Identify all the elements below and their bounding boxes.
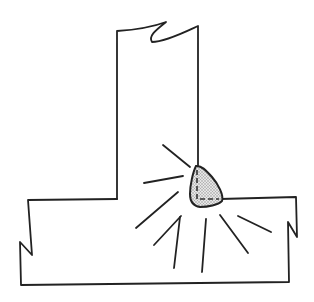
fillet-weld bbox=[190, 166, 222, 207]
vertical-plate bbox=[117, 22, 198, 199]
radiating-lines bbox=[136, 145, 271, 272]
weld-diagram bbox=[0, 0, 314, 302]
